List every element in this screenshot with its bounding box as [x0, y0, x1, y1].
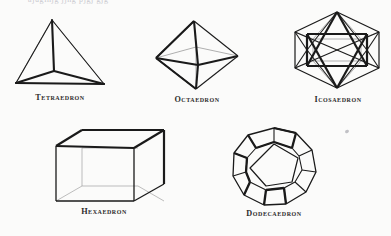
caption-octaedron: Octaedron	[166, 95, 228, 104]
dodecaedron-inner-pentagon	[250, 144, 298, 186]
figure-tetraedron	[8, 14, 112, 92]
hexaedron-drawing	[52, 126, 168, 206]
scan-speckle-artifact	[345, 129, 350, 133]
dodecaedron-drawing	[228, 126, 320, 208]
hexaedron-bold-edges	[56, 130, 164, 184]
figure-hexaedron	[52, 126, 168, 206]
caption-icosaedron: Icosaedron	[303, 95, 373, 104]
caption-hexaedron: Hexaedron	[62, 207, 146, 216]
icosaedron-drawing	[291, 8, 383, 92]
figure-dodecaedron	[228, 126, 320, 208]
hexaedron-front-face	[56, 146, 134, 201]
figure-octaedron	[150, 13, 244, 95]
platonic-solids-plate: ajugihjg jjhg pjgj gjg Tetraedron	[0, 0, 391, 236]
caption-dodecaedron: Dodecaedron	[229, 209, 319, 218]
dodecaedron-middle-ring	[246, 142, 302, 190]
octaedron-bold-edges	[156, 21, 238, 89]
caption-tetraedron: Tetraedron	[17, 93, 103, 102]
tetraedron-drawing	[8, 14, 112, 92]
figure-icosaedron	[291, 8, 383, 92]
tetraedron-outline	[16, 20, 104, 84]
octaedron-drawing	[150, 13, 244, 95]
top-bleed-glyphs: ajugihjg jjhg pjgj gjg	[28, 0, 109, 4]
